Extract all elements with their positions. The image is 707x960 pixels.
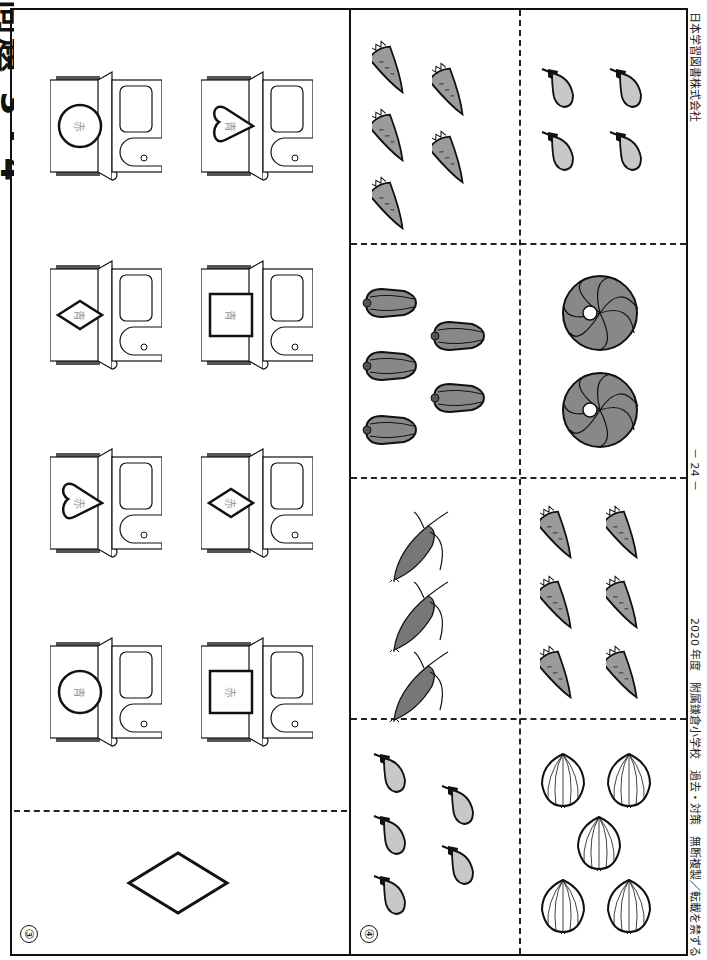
carrot-icon bbox=[432, 130, 466, 192]
footer-copyright: 2020 年度 附属鎌倉小学校 過去・対策 無断複製／転載を禁ずる bbox=[688, 618, 704, 958]
house-color-label: 赤 bbox=[72, 498, 88, 509]
eggplant-icon bbox=[372, 872, 408, 920]
pumpkin-icon bbox=[560, 370, 640, 454]
house-color-label: 赤 bbox=[223, 498, 239, 509]
panel-4-label: ④ bbox=[360, 925, 378, 943]
onion-icon bbox=[606, 878, 652, 938]
eggplant-icon bbox=[608, 65, 644, 113]
panel-4-divider-1 bbox=[351, 243, 686, 245]
carrot-icon bbox=[540, 505, 574, 567]
house-square: 赤 bbox=[201, 632, 313, 748]
bell-pepper-icon bbox=[428, 380, 486, 420]
sample-diamond-shape bbox=[125, 848, 231, 918]
carrot-icon bbox=[606, 505, 640, 567]
pumpkin-icon bbox=[560, 273, 640, 357]
house-circle: 青 bbox=[50, 632, 162, 748]
panel-4-divider-2 bbox=[351, 477, 686, 479]
house-color-label: 青 bbox=[223, 121, 239, 132]
onion-icon bbox=[606, 752, 652, 812]
onion-icon bbox=[540, 878, 586, 938]
carrot-icon bbox=[432, 62, 466, 124]
carrot-icon bbox=[372, 176, 406, 238]
corn-icon bbox=[388, 580, 452, 656]
eggplant-icon bbox=[440, 782, 476, 830]
onion-icon bbox=[540, 752, 586, 812]
bell-pepper-icon bbox=[360, 412, 418, 452]
panel-3-divider bbox=[14, 810, 347, 812]
house-color-label: 青 bbox=[72, 310, 88, 321]
carrot-icon bbox=[606, 575, 640, 637]
bell-pepper-icon bbox=[428, 318, 486, 358]
panel-3-label: ③ bbox=[20, 925, 38, 943]
onion-icon bbox=[576, 815, 622, 875]
eggplant-icon bbox=[540, 128, 576, 176]
house-color-label: 赤 bbox=[223, 687, 239, 698]
page-number: － 24 － bbox=[688, 448, 704, 491]
house-color-label: 青 bbox=[72, 687, 88, 698]
bell-pepper-icon bbox=[360, 285, 418, 325]
corn-icon bbox=[388, 650, 452, 726]
eggplant-icon bbox=[372, 812, 408, 860]
house-diamond: 赤 bbox=[201, 443, 313, 559]
carrot-icon bbox=[540, 575, 574, 637]
house-diamond: 青 bbox=[50, 255, 162, 371]
eggplant-icon bbox=[440, 842, 476, 890]
corn-icon bbox=[388, 510, 452, 586]
house-heart: 青 bbox=[201, 66, 313, 182]
house-color-label: 赤 bbox=[72, 121, 88, 132]
carrot-icon bbox=[372, 108, 406, 170]
carrot-icon bbox=[606, 645, 640, 707]
house-heart: 赤 bbox=[50, 443, 162, 559]
publisher-text: 日本学習図書株式会社 bbox=[688, 12, 704, 122]
carrot-icon bbox=[372, 40, 406, 102]
panel-4-divider-vertical bbox=[519, 10, 521, 954]
bell-pepper-icon bbox=[360, 348, 418, 388]
house-square: 青 bbox=[201, 255, 313, 371]
house-circle: 赤 bbox=[50, 66, 162, 182]
house-color-label: 青 bbox=[223, 310, 239, 321]
eggplant-icon bbox=[540, 65, 576, 113]
eggplant-icon bbox=[372, 750, 408, 798]
carrot-icon bbox=[540, 645, 574, 707]
eggplant-icon bbox=[608, 128, 644, 176]
